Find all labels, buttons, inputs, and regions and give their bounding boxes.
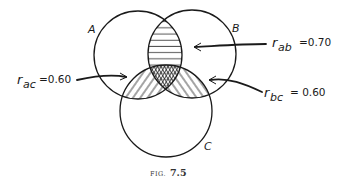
set-a-label: A xyxy=(87,23,96,36)
svg-text:=0.70: =0.70 xyxy=(299,36,331,48)
label-r-ac: r ac =0.60 xyxy=(17,72,71,91)
arrow-r-ab xyxy=(194,43,266,51)
svg-text:7.5: 7.5 xyxy=(170,167,187,178)
arrow-r-ac xyxy=(77,73,127,80)
svg-text:FIG.: FIG. xyxy=(150,170,166,178)
svg-text:=0.60: =0.60 xyxy=(39,73,71,85)
svg-text:= 0.60: = 0.60 xyxy=(290,86,326,98)
svg-text:bc: bc xyxy=(270,91,283,104)
label-r-bc: r bc = 0.60 xyxy=(264,85,326,104)
figure-caption: FIG. 7.5 xyxy=(150,167,187,178)
svg-text:ab: ab xyxy=(278,41,292,54)
set-c-label: C xyxy=(204,140,212,153)
set-b-label: B xyxy=(232,22,240,35)
venn-diagram-figure: A B C r ab =0.70 r ac =0.60 r bc = 0.60 … xyxy=(0,0,343,186)
svg-text:ac: ac xyxy=(23,78,36,91)
label-r-ab: r ab =0.70 xyxy=(272,35,331,54)
